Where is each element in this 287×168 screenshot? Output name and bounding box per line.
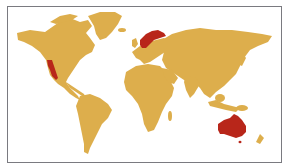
asia (162, 28, 272, 98)
north-america (17, 18, 95, 100)
greenland (88, 12, 122, 40)
madagascar (168, 111, 172, 121)
highlight-australia (218, 114, 246, 138)
new-zealand (256, 134, 264, 144)
south-america (76, 94, 112, 154)
new-guinea (236, 105, 248, 111)
iceland (118, 28, 126, 32)
indonesia (208, 100, 240, 112)
borneo (215, 94, 225, 102)
british-isles (132, 38, 138, 48)
world-map (0, 0, 287, 168)
highlight-tasmania (239, 141, 242, 143)
